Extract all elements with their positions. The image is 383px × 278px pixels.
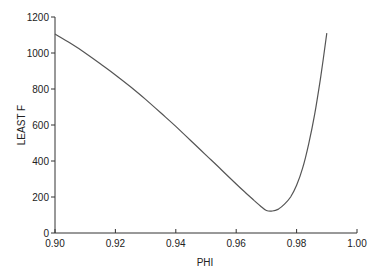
x-tick-label: 0.96 [226, 238, 246, 249]
y-tick-label: 800 [32, 84, 49, 95]
y-axis-title: LEAST F [16, 105, 27, 145]
x-tick-label: 0.92 [106, 238, 126, 249]
y-axis: 020040060080010001200 [27, 12, 55, 239]
x-tick-label: 0.90 [45, 238, 65, 249]
line-chart: 020040060080010001200 0.900.920.940.960.… [0, 0, 383, 278]
y-tick-label: 400 [32, 156, 49, 167]
least-f-curve [55, 33, 327, 211]
y-tick-label: 1200 [27, 12, 50, 23]
x-tick-label: 0.98 [287, 238, 307, 249]
x-axis: 0.900.920.940.960.981.00 [45, 229, 367, 249]
y-tick-label: 1000 [27, 48, 50, 59]
y-tick-label: 600 [32, 120, 49, 131]
x-tick-label: 0.94 [166, 238, 186, 249]
y-tick-label: 0 [43, 228, 49, 239]
x-axis-title: PHI [197, 257, 214, 268]
x-tick-label: 1.00 [347, 238, 367, 249]
y-tick-label: 200 [32, 192, 49, 203]
